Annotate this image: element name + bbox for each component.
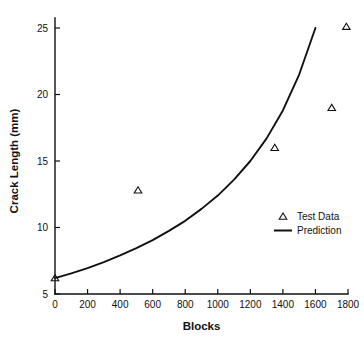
x-tick-label-400: 400 — [112, 299, 129, 310]
y-tick-label-15: 15 — [37, 156, 49, 167]
tick-marks — [55, 28, 348, 294]
tick-labels: 0200400600800100012001400160018005101520… — [37, 23, 360, 310]
legend-marker-0 — [279, 213, 287, 219]
x-tick-label-1800: 1800 — [337, 299, 360, 310]
y-tick-label-25: 25 — [37, 23, 49, 34]
data-point-1 — [134, 187, 142, 193]
y-axis-title: Crack Length (mm) — [8, 108, 20, 213]
legend-label-1: Prediction — [297, 225, 341, 236]
prediction-line — [55, 28, 315, 278]
x-axis-title: Blocks — [183, 320, 221, 332]
x-tick-label-1200: 1200 — [239, 299, 262, 310]
x-tick-label-0: 0 — [52, 299, 58, 310]
y-tick-label-20: 20 — [37, 89, 49, 100]
x-tick-label-200: 200 — [79, 299, 96, 310]
y-tick-label-5: 5 — [42, 289, 48, 300]
x-tick-label-800: 800 — [177, 299, 194, 310]
y-tick-label-10: 10 — [37, 222, 49, 233]
chart-canvas: 0200400600800100012001400160018005101520… — [0, 0, 364, 340]
legend-label-0: Test Data — [297, 211, 340, 222]
data-point-2 — [271, 144, 279, 150]
data-point-3 — [328, 104, 336, 110]
test-data-markers — [51, 23, 350, 281]
x-tick-label-1000: 1000 — [207, 299, 230, 310]
crack-growth-chart: 0200400600800100012001400160018005101520… — [0, 0, 364, 340]
prediction-curve — [55, 28, 315, 278]
data-point-4 — [343, 23, 351, 29]
chart-legend: Test DataPrediction — [274, 211, 341, 236]
x-tick-label-1600: 1600 — [304, 299, 327, 310]
x-tick-label-600: 600 — [144, 299, 161, 310]
x-tick-label-1400: 1400 — [272, 299, 295, 310]
